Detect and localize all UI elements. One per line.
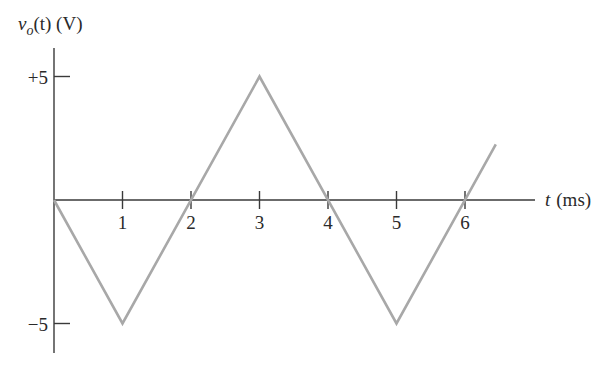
x-tick-label: 4	[323, 212, 333, 233]
x-tick-label: 5	[392, 212, 402, 233]
x-tick-label: 3	[255, 212, 265, 233]
x-tick-label: 1	[118, 212, 128, 233]
triangle-wave-chart: 123456 +5−5 vo(t) (V) t(ms)	[0, 0, 605, 367]
y-tick-label: −5	[28, 314, 48, 335]
x-axis-label: t(ms)	[545, 189, 591, 211]
y-axis-label: vo(t) (V)	[18, 13, 83, 38]
x-tick-label: 2	[186, 212, 196, 233]
x-tick-label: 6	[460, 212, 470, 233]
y-tick-label: +5	[28, 67, 48, 88]
x-ticks: 123456	[118, 191, 470, 233]
